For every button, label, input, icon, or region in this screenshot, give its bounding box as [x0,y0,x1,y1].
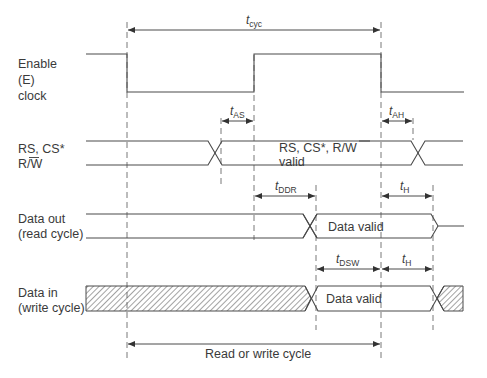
timing-diagram: Enable (E) clock RS, CS* R/W Data out (r… [0,0,487,378]
data-in-waveform [86,286,463,311]
svg-text:Data out: Data out [18,212,66,226]
tddr-arrow: tDDR [255,179,315,196]
tah-arrow: tAH [382,104,412,121]
svg-text:clock: clock [18,89,47,103]
signal-label-enable: Enable (E) clock [18,57,57,103]
read-write-cycle-arrow: Read or write cycle [128,344,380,361]
svg-text:(E): (E) [18,73,35,87]
data-in-valid-label: Data valid [326,292,382,306]
rs-bus-waveform [86,141,463,165]
svg-text:RS, CS*, R/W: RS, CS*, R/W [279,141,357,155]
svg-text:Read or write cycle: Read or write cycle [205,347,311,361]
svg-text:(read cycle): (read cycle) [18,227,83,241]
th-write-arrow: tH [382,252,432,269]
data-out-valid-label: Data valid [328,220,384,234]
svg-text:(write cycle): (write cycle) [18,301,85,315]
signal-label-rs: RS, CS* R/W [18,142,65,171]
enable-waveform [86,54,464,92]
svg-text:tDSW: tDSW [336,252,359,268]
signal-label-data-out: Data out (read cycle) [18,212,83,241]
signal-label-data-in: Data in (write cycle) [18,286,85,315]
svg-text:Enable: Enable [18,57,57,71]
tdsw-arrow: tDSW [317,252,380,269]
tcyc-arrow: tcyc [128,13,380,30]
svg-text:tH: tH [402,252,411,268]
svg-text:tH: tH [400,179,409,195]
data-out-waveform [86,214,464,238]
svg-text:tAH: tAH [389,104,404,120]
svg-text:RS, CS*: RS, CS* [18,142,65,156]
svg-text:tcyc: tcyc [246,13,263,29]
svg-text:R/W: R/W [18,157,43,171]
svg-text:tDDR: tDDR [275,179,297,195]
tas-arrow: tAS [222,104,253,121]
svg-text:valid: valid [279,155,305,169]
th-read-arrow: tH [382,179,432,196]
svg-text:Data in: Data in [18,286,58,300]
svg-text:tAS: tAS [230,104,245,120]
